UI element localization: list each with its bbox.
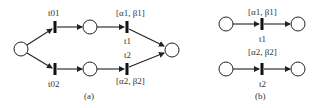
place-end — [165, 43, 179, 57]
place-b-1-out — [291, 17, 305, 31]
place-b-2-out — [291, 62, 305, 76]
label-b-t1: t1 — [259, 34, 266, 44]
arc-t1-end — [129, 29, 164, 46]
caption-b: (b) — [255, 91, 266, 101]
arc-t2-end — [129, 53, 164, 67]
place-lower — [83, 62, 97, 76]
label-interval-2: [α2, β2] — [116, 76, 145, 86]
label-t1: t1 — [124, 36, 131, 46]
transition-b-t2 — [261, 63, 264, 75]
label-b-interval-2: [α2, β2] — [248, 47, 277, 57]
place-start — [14, 42, 28, 56]
caption-a: (a) — [84, 91, 94, 101]
transition-t2 — [126, 63, 129, 75]
label-t02: t02 — [48, 79, 60, 89]
panel-a: t01 t02 [α1, β1] t1 t2 [α2, β2] (a) — [14, 8, 179, 101]
transition-t01 — [54, 21, 57, 33]
transition-b-t1 — [261, 18, 264, 30]
label-t01: t01 — [48, 8, 60, 18]
place-b-1-in — [219, 17, 233, 31]
transition-t1 — [126, 21, 129, 33]
petri-net-diagram: t01 t02 [α1, β1] t1 t2 [α2, β2] (a) [α1,… — [0, 0, 322, 108]
arc-start-t01 — [27, 29, 52, 45]
label-b-interval-1: [α1, β1] — [248, 7, 277, 17]
place-upper — [83, 20, 97, 34]
panel-b: [α1, β1] t1 [α2, β2] t2 (b) — [219, 7, 305, 101]
label-b-t2: t2 — [259, 79, 266, 89]
place-b-2-in — [219, 62, 233, 76]
arc-start-t02 — [27, 53, 52, 68]
transition-t02 — [54, 63, 57, 75]
label-t2: t2 — [124, 50, 131, 60]
label-interval-1: [α1, β1] — [116, 8, 145, 18]
